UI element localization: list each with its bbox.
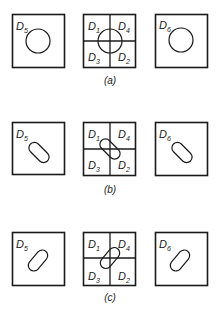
quadrant-label-d1: D1 (88, 128, 100, 142)
quadrant-label-d4: D4 (118, 128, 130, 142)
subdivided-box: D1 D4 D3 D2 (84, 233, 136, 286)
region-d5-box: D5 (13, 15, 65, 68)
capsule-object (168, 248, 192, 273)
domain-diagram: D5 D1 D4 D3 D2 D6 (a) D5 (0, 0, 222, 315)
caption-c: (c) (104, 292, 116, 303)
quadrant-label-d3: D3 (88, 51, 100, 65)
region-d5-box: D5 (13, 123, 65, 175)
row-a: D5 D1 D4 D3 D2 D6 (a) (13, 15, 208, 87)
quadrant-label-d2: D2 (118, 159, 130, 173)
quadrant-label-d1: D1 (88, 238, 100, 252)
circle-object (169, 28, 193, 52)
quadrant-label-d3: D3 (88, 159, 100, 173)
quadrant-label-d2: D2 (118, 51, 130, 65)
capsule-object (27, 140, 52, 165)
caption-a: (a) (104, 75, 116, 86)
quadrant-label-d4: D4 (118, 20, 130, 34)
region-d6-box: D6 (156, 15, 208, 68)
region-d6-box: D6 (156, 233, 208, 286)
circle-object (26, 29, 50, 53)
region-label: D6 (159, 19, 171, 33)
quadrant-label-d4: D4 (118, 238, 130, 252)
region-d6-box: D6 (156, 123, 208, 176)
capsule-object (26, 248, 50, 273)
subdivided-box: D1 D4 D3 D2 (84, 123, 136, 176)
row-c: D5 D1 D4 D3 D2 D6 (c) (13, 233, 208, 304)
capsule-object (170, 140, 195, 165)
quadrant-label-d2: D2 (118, 270, 130, 284)
caption-b: (b) (104, 184, 116, 195)
region-d5-box: D5 (13, 233, 65, 286)
region-label: D5 (16, 238, 28, 252)
region-label: D6 (159, 128, 171, 142)
region-label: D5 (16, 20, 28, 34)
quadrant-label-d3: D3 (88, 270, 100, 284)
subdivided-box: D1 D4 D3 D2 (84, 15, 136, 68)
region-label: D6 (159, 238, 171, 252)
row-b: D5 D1 D4 D3 D2 D6 (b) (13, 123, 208, 196)
quadrant-label-d1: D1 (88, 20, 100, 34)
region-label: D5 (16, 128, 28, 142)
